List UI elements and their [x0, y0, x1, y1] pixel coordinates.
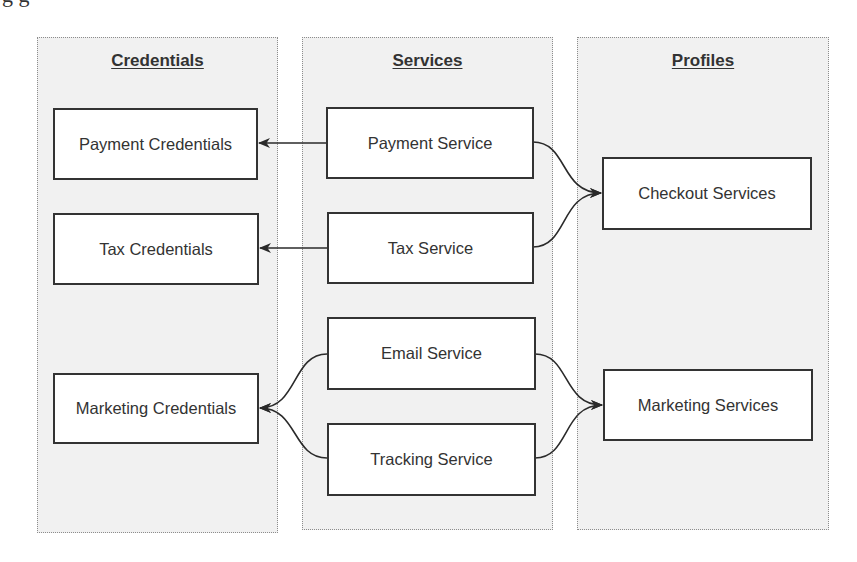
- node-tax-service[interactable]: Tax Service: [327, 212, 534, 284]
- node-marketing-credentials[interactable]: Marketing Credentials: [53, 373, 259, 444]
- node-label: Tax Credentials: [99, 240, 213, 259]
- node-label: Payment Service: [368, 134, 493, 153]
- node-marketing-services[interactable]: Marketing Services: [603, 369, 813, 441]
- node-tracking-service[interactable]: Tracking Service: [327, 423, 536, 496]
- node-label: Tax Service: [388, 239, 473, 258]
- node-label: Email Service: [381, 344, 482, 363]
- node-label: Payment Credentials: [79, 135, 232, 154]
- cropped-title-fragment: g g: [2, 0, 30, 8]
- node-tax-credentials[interactable]: Tax Credentials: [53, 213, 259, 285]
- node-label: Checkout Services: [638, 184, 776, 203]
- column-header-services: Services: [303, 51, 552, 71]
- column-header-credentials: Credentials: [38, 51, 277, 71]
- node-email-service[interactable]: Email Service: [327, 317, 536, 390]
- node-payment-service[interactable]: Payment Service: [326, 107, 534, 179]
- node-label: Marketing Services: [638, 396, 778, 415]
- node-payment-credentials[interactable]: Payment Credentials: [53, 108, 258, 180]
- node-checkout-services[interactable]: Checkout Services: [602, 157, 812, 230]
- node-label: Tracking Service: [370, 450, 492, 469]
- node-label: Marketing Credentials: [76, 399, 237, 418]
- column-header-profiles: Profiles: [578, 51, 828, 71]
- column-profiles: Profiles: [577, 37, 829, 530]
